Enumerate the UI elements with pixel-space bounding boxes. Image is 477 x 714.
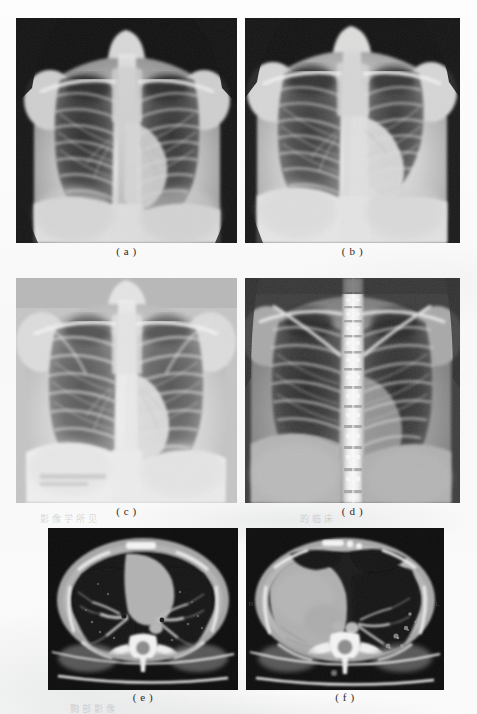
panel-c-caption: ( c ) — [16, 505, 237, 517]
panel-d-image — [245, 278, 460, 503]
panel-e-caption: ( e ) — [48, 691, 238, 703]
panel-a-image — [16, 18, 237, 243]
panel-d-caption: ( d ) — [245, 505, 460, 517]
panel-f-image: R L — [246, 528, 444, 690]
figure-plate: ( a ) — [0, 0, 477, 714]
panel-a-caption: ( a ) — [16, 245, 237, 257]
panel-b-chest-xray — [245, 18, 460, 243]
panel-a-chest-xray — [16, 18, 237, 243]
panel-f-caption: ( f ) — [246, 691, 444, 703]
panel-e-image — [48, 528, 238, 690]
panel-b-image — [245, 18, 460, 243]
panel-c-image — [16, 278, 237, 503]
panel-f-chest-ct: R L — [246, 528, 444, 690]
panel-d-chest-xray — [245, 278, 460, 503]
panel-c-chest-xray — [16, 278, 237, 503]
panel-e-chest-ct — [48, 528, 238, 690]
scan-bleed-mark-3: 胸部影像 — [70, 702, 118, 714]
panel-b-caption: ( b ) — [245, 245, 460, 257]
